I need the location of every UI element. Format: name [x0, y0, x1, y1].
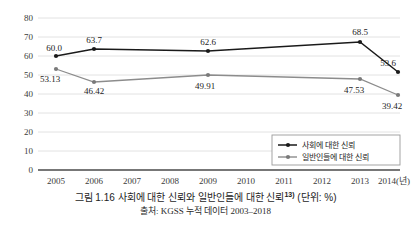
- y-tick-50: 50: [24, 70, 34, 80]
- y-tick-10: 10: [24, 146, 34, 156]
- x-tick-2008: 2008: [161, 176, 180, 186]
- y-tick-70: 70: [24, 32, 34, 42]
- figure-caption-main: 그림 1.16 사회에 대한 신뢰와 일반인들에 대한 신뢰: [75, 192, 285, 203]
- x-tick-2014: 2014(년): [378, 176, 410, 186]
- y-tick-40: 40: [24, 89, 34, 99]
- data-label: 39.42: [382, 101, 402, 111]
- series-social-trust-labels: 60.0 63.7 62.6 68.5 53.6: [46, 27, 396, 68]
- legend-label: 사회에 대한 신뢰: [302, 141, 355, 150]
- data-point: [206, 73, 210, 77]
- legend-marker-icon: [286, 155, 290, 159]
- data-point: [396, 70, 400, 74]
- chart-plot-area: 80 70 60 50 40 30 20 10 0 2005 2006 2007…: [0, 0, 411, 188]
- x-tick-2010: 2010: [237, 176, 256, 186]
- data-label: 63.7: [86, 35, 102, 45]
- y-tick-80: 80: [24, 13, 34, 23]
- y-tick-30: 30: [24, 108, 34, 118]
- legend-marker-icon: [286, 143, 290, 147]
- line-chart-svg: 80 70 60 50 40 30 20 10 0 2005 2006 2007…: [0, 0, 411, 188]
- x-tick-2012: 2012: [313, 176, 331, 186]
- data-label: 68.5: [352, 27, 368, 37]
- data-label: 53.6: [380, 58, 396, 68]
- x-axis-ticks: 2005 2006 2007 2008 2009 2010 2011 2012 …: [47, 176, 410, 186]
- data-label: 62.6: [200, 37, 216, 47]
- data-label: 49.91: [195, 81, 215, 91]
- series-social-trust: [54, 40, 400, 74]
- series-general-trust-labels: 53.13 46.42 49.91 47.53 39.42: [40, 74, 402, 111]
- data-point: [92, 80, 96, 84]
- figure-caption: 그림 1.16 사회에 대한 신뢰와 일반인들에 대한 신뢰13) (단위: %…: [0, 188, 411, 205]
- figure-container: 80 70 60 50 40 30 20 10 0 2005 2006 2007…: [0, 0, 411, 229]
- x-tick-2009: 2009: [199, 176, 218, 186]
- y-tick-0: 0: [29, 165, 34, 175]
- data-point: [54, 54, 58, 58]
- figure-source: 출처: KGSS 누적 데이터 2003–2018: [0, 205, 411, 218]
- data-point: [92, 47, 96, 51]
- y-axis-ticks: 80 70 60 50 40 30 20 10 0: [24, 13, 34, 175]
- x-tick-2013: 2013: [351, 176, 370, 186]
- data-label: 53.13: [40, 74, 61, 84]
- data-label: 60.0: [46, 43, 62, 53]
- figure-caption-unit: (단위: %): [295, 192, 337, 203]
- y-tick-60: 60: [24, 51, 34, 61]
- data-point: [358, 40, 362, 44]
- data-point: [396, 93, 400, 97]
- data-point: [358, 77, 362, 81]
- data-label: 47.53: [344, 85, 365, 95]
- x-tick-2007: 2007: [123, 176, 142, 186]
- chart-legend[interactable]: 사회에 대한 신뢰 일반인들에 대한 신뢰: [272, 135, 400, 165]
- x-tick-2011: 2011: [275, 176, 293, 186]
- series-social-trust-line: [56, 42, 398, 72]
- data-label: 46.42: [84, 86, 104, 96]
- figure-caption-footnote-marker: 13): [284, 191, 294, 198]
- y-tick-20: 20: [24, 127, 34, 137]
- data-point: [206, 49, 210, 53]
- figure-caption-block: 그림 1.16 사회에 대한 신뢰와 일반인들에 대한 신뢰13) (단위: %…: [0, 188, 411, 218]
- data-point: [54, 67, 58, 71]
- x-tick-2006: 2006: [85, 176, 104, 186]
- legend-label: 일반인들에 대한 신뢰: [302, 152, 369, 162]
- x-tick-2005: 2005: [47, 176, 66, 186]
